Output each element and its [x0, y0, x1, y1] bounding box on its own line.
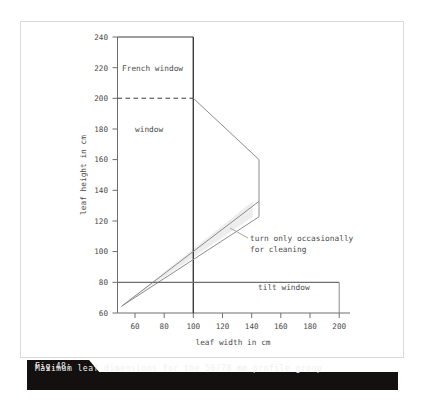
- chart-series: [118, 37, 340, 313]
- x-tick-label-60: 60: [130, 322, 140, 331]
- series-window-upper-diagonal: [193, 98, 259, 159]
- x-tick-label-180: 180: [303, 322, 317, 331]
- turn-only-shade: [122, 201, 253, 306]
- y-tick-label-160: 160: [94, 155, 108, 164]
- annotation-text-line2: for cleaning: [250, 245, 306, 254]
- caption-text-label: Maximum leaf dimensions for the 56/78 mm…: [35, 363, 322, 375]
- x-tick-label-140: 140: [245, 322, 259, 331]
- y-tick-label-60: 60: [99, 309, 109, 318]
- x-tick-label-160: 160: [274, 322, 288, 331]
- y-tick-label-200: 200: [94, 94, 108, 103]
- x-axis-tick-labels: 60 80 100 120 140 160 180 200: [130, 322, 346, 331]
- y-tick-label-240: 240: [94, 33, 108, 42]
- region-label-tilt-window: tilt window: [258, 283, 310, 292]
- y-tick-label-140: 140: [94, 186, 108, 195]
- y-axis-title: leaf height in cm: [79, 135, 88, 215]
- axes: [118, 37, 351, 313]
- annotation-turn-only-occasionally: turn only occasionally for cleaning: [230, 228, 354, 254]
- chart-canvas: 240 220 200 180 160 140 120 100 80 60 60…: [0, 0, 425, 412]
- y-axis-ticks: [113, 37, 118, 313]
- series-wedge-upper-diagonal: [122, 201, 259, 306]
- series-wedge-lower-diagonal: [122, 217, 259, 306]
- figure-caption: Fig.48: Maximum leaf dimensions for the …: [27, 360, 398, 390]
- annotation-text-line1: turn only occasionally: [250, 234, 354, 243]
- x-tick-label-200: 200: [332, 322, 346, 331]
- region-label-window: window: [135, 125, 163, 134]
- x-tick-label-80: 80: [160, 322, 170, 331]
- figure-root: 240 220 200 180 160 140 120 100 80 60 60…: [0, 0, 425, 412]
- region-turn-only-occasionally: [122, 201, 253, 306]
- y-tick-label-120: 120: [94, 217, 108, 226]
- region-label-french-window: French window: [122, 64, 183, 73]
- x-tick-label-120: 120: [216, 322, 230, 331]
- y-tick-label-80: 80: [99, 278, 109, 287]
- x-tick-label-100: 100: [186, 322, 200, 331]
- y-tick-label-180: 180: [94, 125, 108, 134]
- y-tick-label-100: 100: [94, 247, 108, 256]
- x-axis-title: leaf width in cm: [195, 338, 270, 347]
- x-axis-ticks: [135, 313, 339, 318]
- y-tick-label-220: 220: [94, 64, 108, 73]
- y-axis-tick-labels: 240 220 200 180 160 140 120 100 80 60: [94, 33, 108, 318]
